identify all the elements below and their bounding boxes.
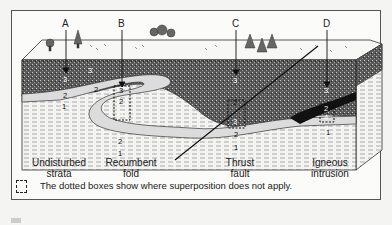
column-label-b: B <box>118 18 125 29</box>
svg-text:3: 3 <box>324 86 328 95</box>
caption-thrust-fault: Thrust fault <box>205 157 275 179</box>
svg-text:2: 2 <box>94 85 98 94</box>
svg-text:3: 3 <box>233 117 237 126</box>
caption-igneous-intrusion: Igneous intrusion <box>295 157 365 179</box>
svg-text:3: 3 <box>119 109 123 118</box>
column-label-c: C <box>232 18 239 29</box>
svg-text:1: 1 <box>326 128 330 137</box>
svg-text:4: 4 <box>324 113 328 122</box>
svg-text:3: 3 <box>119 86 123 95</box>
block-diagram: 33 221 323 21 323 21 324 1 <box>0 0 392 225</box>
svg-text:2: 2 <box>118 137 122 146</box>
caption-undisturbed-strata: Undisturbed strata <box>24 157 94 179</box>
svg-text:2: 2 <box>119 97 123 106</box>
svg-text:2: 2 <box>63 91 67 100</box>
column-label-d: D <box>323 18 330 29</box>
svg-text:2: 2 <box>324 104 328 113</box>
legend-note: The dotted boxes show where superpositio… <box>40 180 292 191</box>
column-label-a: A <box>62 18 69 29</box>
caption-recumbent-fold: Recumbent fold <box>96 157 166 179</box>
dotted-box-legend-icon <box>16 180 27 193</box>
svg-text:3: 3 <box>63 75 67 84</box>
svg-text:3: 3 <box>233 76 237 85</box>
figure-label-fragment <box>11 218 21 223</box>
svg-text:1: 1 <box>234 143 238 152</box>
svg-text:2: 2 <box>233 98 237 107</box>
svg-text:3: 3 <box>88 66 92 75</box>
svg-text:2: 2 <box>234 130 238 139</box>
svg-text:1: 1 <box>62 102 66 111</box>
